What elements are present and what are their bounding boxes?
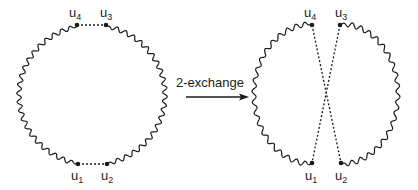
node-u4 <box>310 23 315 28</box>
tour-path-left <box>17 26 78 164</box>
left-labels: u4 u3 u1 u2 <box>69 5 113 185</box>
tour-before <box>17 23 167 167</box>
edge-u4-u2 <box>312 25 341 163</box>
tour-path-left <box>252 22 312 165</box>
right-labels: u4 u3 u1 u2 <box>304 5 347 185</box>
node-u1 <box>310 161 315 166</box>
node-label-u4: u4 <box>304 5 316 22</box>
tour-after <box>252 22 400 166</box>
node-u1 <box>76 162 81 167</box>
tour-path-right <box>106 26 167 164</box>
node-label-u2: u2 <box>335 168 347 185</box>
arrow-label: 2-exchange <box>176 75 244 90</box>
exchange-arrow: 2-exchange <box>176 75 249 101</box>
node-u4 <box>75 23 80 28</box>
node-label-u2: u2 <box>101 168 113 185</box>
node-label-u3: u3 <box>100 5 112 22</box>
node-u3 <box>104 23 109 28</box>
node-label-u3: u3 <box>335 5 347 22</box>
node-u2 <box>105 162 110 167</box>
node-label-u1: u1 <box>71 168 83 185</box>
node-u2 <box>339 161 344 166</box>
tour-path-right <box>341 23 400 166</box>
node-label-u4: u4 <box>69 5 81 22</box>
diagram-canvas: u4 u3 u1 u2 2-exchange u4 u3 u1 u2 <box>0 0 418 190</box>
node-label-u1: u1 <box>305 168 317 185</box>
node-u3 <box>338 23 343 28</box>
